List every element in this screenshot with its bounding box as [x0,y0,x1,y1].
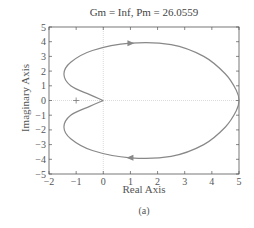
x-tick-label: 4 [209,176,214,187]
y-tick-label: 0 [41,95,46,106]
x-tick-label: 3 [182,176,187,187]
y-tick-label: 5 [41,22,46,33]
direction-arrow-icon [126,155,133,161]
x-tick-label: 5 [237,176,242,187]
x-tick-label: 0 [101,176,106,187]
y-tick-label: 1 [41,80,46,91]
y-tick-label: 2 [41,66,46,77]
x-tick-label: −1 [71,176,82,187]
y-tick-label: −2 [35,124,46,135]
x-tick-label: 2 [155,176,160,187]
direction-arrow-icon [127,40,134,46]
x-tick-label: 1 [128,176,133,187]
nyquist-plot: −2−1012345543210−1−2−3−4−5 [0,0,254,228]
y-tick-label: −3 [35,139,46,150]
y-tick-label: 4 [41,36,46,47]
y-tick-label: −5 [35,169,46,180]
y-tick-label: −1 [35,110,46,121]
y-tick-label: −4 [35,154,46,165]
y-tick-label: 3 [41,51,46,62]
